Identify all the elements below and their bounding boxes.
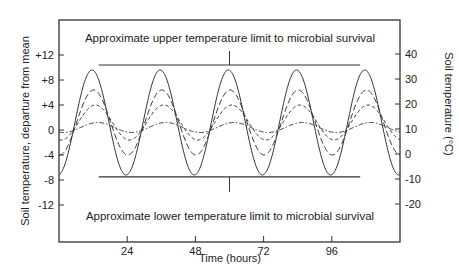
left-axis: +12+8+40-4-8-12: [35, 49, 64, 211]
y-tick-label: +8: [41, 74, 54, 86]
x-tick-label: 24: [121, 245, 133, 257]
series-layer: [59, 70, 400, 175]
y-right-tick-label: -10: [405, 173, 421, 185]
y-right-tick-label: 10: [405, 123, 417, 135]
y-tick-label: +12: [35, 49, 54, 61]
y-tick-label: -12: [38, 199, 54, 211]
x-axis-title: Time (hours): [199, 252, 261, 264]
x-tick-label: 96: [326, 245, 338, 257]
y-axis-title-right: Soil temperature (°C): [443, 52, 455, 155]
y-right-tick-label: 0: [405, 148, 411, 160]
chart: Approximate upper temperature limit to m…: [0, 0, 459, 274]
y-tick-label: +4: [41, 99, 54, 111]
y-tick-label: 0: [48, 124, 54, 136]
y-tick-label: -8: [44, 174, 54, 186]
right-axis: 403020100-10-20: [395, 48, 421, 210]
y-tick-label: -4: [44, 149, 54, 161]
y-right-tick-label: 20: [405, 98, 417, 110]
y-axis-title-left: Soil temperature, departure from mean: [19, 36, 31, 226]
annotation-layer: Approximate upper temperature limit to m…: [85, 32, 375, 222]
y-right-tick-label: 30: [405, 73, 417, 85]
y-right-tick-label: -20: [405, 198, 421, 210]
lower-limit-label: Approximate lower temperature limit to m…: [86, 210, 374, 222]
y-right-tick-label: 40: [405, 48, 417, 60]
upper-limit-label: Approximate upper temperature limit to m…: [85, 32, 375, 44]
